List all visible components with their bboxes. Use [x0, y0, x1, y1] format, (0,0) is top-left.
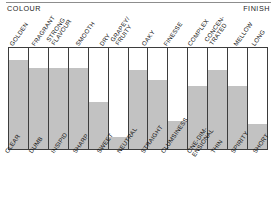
header-label-finish: FINISH [243, 4, 270, 13]
bottom-attribute-labels: CLEARDUMBINSIPIDSHARPSWEETNEUTRALSTRAIGH… [0, 151, 277, 197]
header-label-colour: COLOUR [7, 4, 41, 13]
chart-bar-column [29, 48, 49, 149]
top-label: GRAPEY/ FRUITY [110, 16, 137, 47]
bar-chart-plot-area [8, 47, 268, 150]
header-rule [6, 2, 271, 3]
top-attribute-labels: GOLDENFRAGRANTSTRONG FLAVOURSMOOTHDRYGRA… [0, 13, 277, 47]
top-label: OAKY [141, 29, 157, 47]
top-label: FINESSE [163, 21, 184, 47]
top-label: GOLDEN [9, 21, 30, 47]
top-label: SMOOTH [75, 20, 96, 47]
wine-tasting-profile-chart: COLOUR FINISH GOLDENFRAGRANTSTRONG FLAVO… [0, 0, 277, 197]
top-label: LONG [251, 28, 267, 47]
